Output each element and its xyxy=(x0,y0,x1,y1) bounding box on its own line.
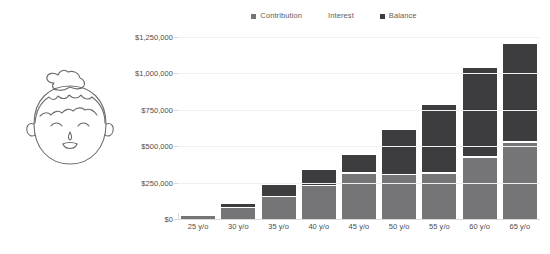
x-axis-tick-label: 40 y/o xyxy=(299,222,339,231)
stacked-bar[interactable] xyxy=(382,130,416,219)
y-axis-tickmark xyxy=(174,73,178,74)
y-axis-tickmark xyxy=(174,146,178,147)
person-illustration xyxy=(18,52,122,176)
y-axis-tickmark xyxy=(174,219,178,220)
gridline xyxy=(178,219,540,220)
bar-segment-contribution[interactable] xyxy=(463,158,497,219)
stacked-bar[interactable] xyxy=(463,68,497,219)
y-axis-tick-label: $750,000 xyxy=(141,105,173,114)
bar-segment-contribution[interactable] xyxy=(262,197,296,219)
x-axis: 25 y/o30 y/o35 y/o40 y/o45 y/o50 y/o55 y… xyxy=(178,222,540,238)
bar-segment-contribution[interactable] xyxy=(302,186,336,219)
bar-column[interactable] xyxy=(379,37,419,219)
bar-segment-balance[interactable] xyxy=(221,204,255,207)
gridline xyxy=(178,146,540,147)
bar-column[interactable] xyxy=(339,37,379,219)
plot-wrapper: $0$250,000$500,000$750,000$1,000,000$1,2… xyxy=(124,0,544,254)
bar-column[interactable] xyxy=(500,37,540,219)
x-axis-tick-label: 55 y/o xyxy=(419,222,459,231)
bar-column[interactable] xyxy=(460,37,500,219)
y-axis-tick-label: $0 xyxy=(165,215,173,224)
stacked-bar[interactable] xyxy=(302,170,336,219)
bar-segment-contribution[interactable] xyxy=(422,174,456,219)
stacked-bar[interactable] xyxy=(342,155,376,219)
bar-segment-balance[interactable] xyxy=(382,130,416,174)
x-axis-tick-label: 60 y/o xyxy=(460,222,500,231)
y-axis-tickmark xyxy=(174,37,178,38)
bar-column[interactable] xyxy=(259,37,299,219)
stacked-bar[interactable] xyxy=(221,204,255,219)
bar-column[interactable] xyxy=(419,37,459,219)
y-axis-tickmark xyxy=(174,183,178,184)
y-axis-tick-label: $250,000 xyxy=(141,178,173,187)
bar-segment-contribution[interactable] xyxy=(342,174,376,219)
gridline xyxy=(178,110,540,111)
x-axis-tick-label: 30 y/o xyxy=(218,222,258,231)
y-axis-tickmark xyxy=(174,110,178,111)
gridline xyxy=(178,183,540,184)
stacked-bar[interactable] xyxy=(262,185,296,219)
retirement-chart-page: Contribution Interest Balance $0$250,000… xyxy=(0,0,550,254)
bar-segment-balance[interactable] xyxy=(422,105,456,172)
bar-group xyxy=(178,37,540,219)
bar-column[interactable] xyxy=(218,37,258,219)
bar-segment-balance[interactable] xyxy=(463,68,497,157)
savings-growth-chart: Contribution Interest Balance $0$250,000… xyxy=(124,0,544,254)
bar-segment-contribution[interactable] xyxy=(221,208,255,219)
stacked-bar[interactable] xyxy=(503,44,537,219)
stacked-bar[interactable] xyxy=(422,105,456,219)
x-axis-tick-label: 25 y/o xyxy=(178,222,218,231)
plot-area xyxy=(178,37,540,219)
x-axis-tick-label: 65 y/o xyxy=(500,222,540,231)
y-axis-tick-label: $1,250,000 xyxy=(135,33,173,42)
y-axis-tick-label: $500,000 xyxy=(141,142,173,151)
bar-segment-balance[interactable] xyxy=(342,155,376,172)
bar-column[interactable] xyxy=(178,37,218,219)
gridline xyxy=(178,37,540,38)
x-axis-tick-label: 45 y/o xyxy=(339,222,379,231)
y-axis-tick-label: $1,000,000 xyxy=(135,69,173,78)
x-axis-tick-label: 50 y/o xyxy=(379,222,419,231)
bar-segment-contribution[interactable] xyxy=(503,143,537,219)
y-axis: $0$250,000$500,000$750,000$1,000,000$1,2… xyxy=(124,0,178,254)
bar-segment-balance[interactable] xyxy=(262,185,296,196)
bar-column[interactable] xyxy=(299,37,339,219)
smiling-face-icon xyxy=(18,52,122,176)
x-axis-tick-label: 35 y/o xyxy=(259,222,299,231)
bar-segment-balance[interactable] xyxy=(503,44,537,141)
gridline xyxy=(178,73,540,74)
